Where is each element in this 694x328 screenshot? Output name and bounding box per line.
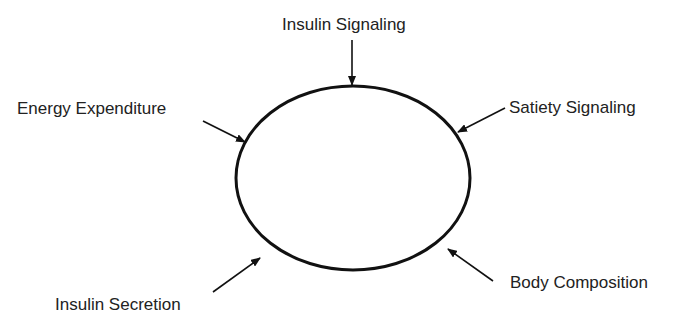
central-cycle-ellipse bbox=[236, 86, 470, 270]
label-energy-expenditure: Energy Expenditure bbox=[17, 99, 166, 119]
label-insulin-secretion: Insulin Secretion bbox=[55, 295, 181, 315]
arrow-satiety-signaling bbox=[458, 108, 505, 132]
arrow-insulin-secretion bbox=[213, 258, 260, 292]
label-satiety-signaling: Satiety Signaling bbox=[509, 98, 636, 118]
label-insulin-signaling: Insulin Signaling bbox=[282, 15, 406, 35]
arrow-energy-expenditure bbox=[203, 121, 245, 142]
label-body-composition: Body Composition bbox=[510, 273, 648, 293]
arrow-body-composition bbox=[448, 249, 493, 281]
